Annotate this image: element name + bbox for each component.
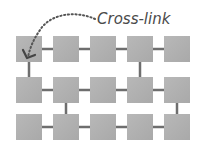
- grid-squares: [16, 36, 190, 140]
- grid-node: [127, 77, 153, 103]
- grid-node: [127, 114, 153, 140]
- cross-link-label: Cross-link: [97, 10, 172, 28]
- grid-node: [90, 77, 116, 103]
- grid-node: [164, 36, 190, 62]
- grid-node: [90, 114, 116, 140]
- grid-node: [16, 77, 42, 103]
- grid-node: [164, 77, 190, 103]
- grid-node: [164, 114, 190, 140]
- grid-node: [90, 36, 116, 62]
- grid-node: [53, 36, 79, 62]
- grid-node: [127, 36, 153, 62]
- grid-node: [53, 114, 79, 140]
- grid-node: [53, 77, 79, 103]
- cross-link-diagram: Cross-link: [0, 0, 201, 156]
- grid-node: [16, 114, 42, 140]
